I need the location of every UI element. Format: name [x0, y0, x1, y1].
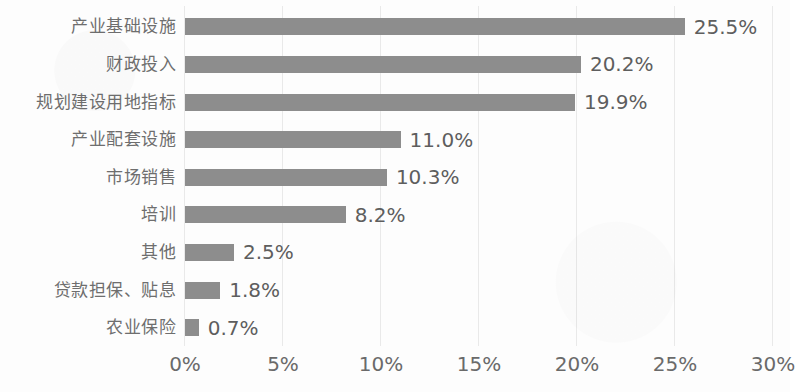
bar-and-value: 11.0% — [185, 131, 473, 148]
bar-value-label: 2.5% — [243, 242, 294, 262]
bar-rows: 产业基础设施25.5%财政投入20.2%规划建设用地指标19.9%产业配套设施1… — [0, 0, 790, 346]
bar-value-label: 25.5% — [694, 17, 758, 37]
category-label: 农业保险 — [0, 319, 176, 336]
bar-row: 培训8.2% — [0, 196, 790, 234]
category-label: 培训 — [0, 206, 176, 223]
bar-row: 规划建设用地指标19.9% — [0, 83, 790, 121]
bar[interactable] — [185, 206, 346, 223]
category-label: 产业基础设施 — [0, 18, 176, 35]
bar-value-label: 10.3% — [396, 167, 460, 187]
x-axis-tick-label: 10% — [359, 352, 403, 376]
bar[interactable] — [185, 319, 199, 336]
bar-value-label: 11.0% — [410, 130, 474, 150]
x-axis-tick-label: 20% — [555, 352, 599, 376]
bar-and-value: 0.7% — [185, 319, 259, 336]
category-label: 市场销售 — [0, 169, 176, 186]
bar-row: 财政投入20.2% — [0, 46, 790, 84]
bar-row: 其他2.5% — [0, 234, 790, 272]
category-label: 产业配套设施 — [0, 131, 176, 148]
bar-and-value: 10.3% — [185, 169, 459, 186]
bar[interactable] — [185, 94, 575, 111]
bar[interactable] — [185, 244, 234, 261]
bar-value-label: 20.2% — [590, 54, 654, 74]
bar-value-label: 0.7% — [208, 318, 259, 338]
x-axis: 0%5%10%15%20%25%30% — [184, 352, 773, 386]
bar-row: 市场销售10.3% — [0, 158, 790, 196]
bar-and-value: 1.8% — [185, 282, 280, 299]
bar-value-label: 8.2% — [355, 205, 406, 225]
bar[interactable] — [185, 131, 401, 148]
bar-row: 产业基础设施25.5% — [0, 8, 790, 46]
bar-row: 农业保险0.7% — [0, 309, 790, 347]
bar-and-value: 19.9% — [185, 94, 648, 111]
bar-and-value: 25.5% — [185, 18, 757, 35]
category-label: 规划建设用地指标 — [0, 94, 176, 111]
bar-and-value: 8.2% — [185, 206, 406, 223]
bar-row: 产业配套设施11.0% — [0, 121, 790, 159]
x-axis-tick-label: 0% — [169, 352, 201, 376]
bar-row: 贷款担保、贴息1.8% — [0, 271, 790, 309]
x-axis-tick-label: 25% — [653, 352, 697, 376]
bar-value-label: 1.8% — [229, 280, 280, 300]
category-label: 贷款担保、贴息 — [0, 282, 176, 299]
category-label: 财政投入 — [0, 56, 176, 73]
bar-value-label: 19.9% — [584, 92, 648, 112]
bar[interactable] — [185, 282, 220, 299]
bar[interactable] — [185, 56, 581, 73]
bar-and-value: 20.2% — [185, 56, 653, 73]
x-axis-tick-label: 15% — [457, 352, 501, 376]
category-label: 其他 — [0, 244, 176, 261]
x-axis-tick-label: 5% — [267, 352, 299, 376]
bar[interactable] — [185, 169, 387, 186]
bar-and-value: 2.5% — [185, 244, 294, 261]
x-axis-tick-label: 30% — [751, 352, 795, 376]
bar[interactable] — [185, 18, 685, 35]
